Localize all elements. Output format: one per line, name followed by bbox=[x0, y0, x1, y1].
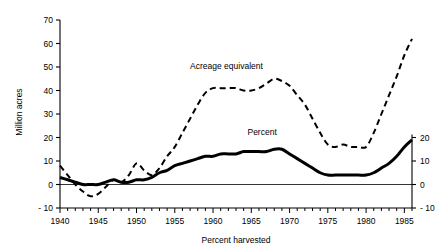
x-tick-label: 1985 bbox=[395, 216, 414, 226]
x-axis-title: Percent harvested bbox=[202, 235, 271, 245]
series-label-percent: Percent bbox=[247, 127, 277, 137]
x-tick-label: 1975 bbox=[318, 216, 337, 226]
y-tick-label-left: 40 bbox=[44, 86, 54, 96]
x-tick-label: 1945 bbox=[89, 216, 108, 226]
y-tick-label-left: 10 bbox=[44, 156, 54, 166]
series-label-acreage-equivalent: Acreage equivalent bbox=[190, 61, 263, 71]
x-tick-label: 1950 bbox=[127, 216, 146, 226]
x-tick-label: 1965 bbox=[242, 216, 261, 226]
x-tick-label: 1980 bbox=[357, 216, 376, 226]
chart-figure: - 10010203040506070- 1001020194019451950… bbox=[0, 0, 441, 250]
y-tick-label-right: 10 bbox=[420, 156, 430, 166]
y-tick-label-left: 0 bbox=[48, 180, 53, 190]
y-tick-label-left: 70 bbox=[44, 15, 54, 25]
y-tick-label-right: 20 bbox=[420, 133, 430, 143]
y-tick-label-left: 60 bbox=[44, 39, 54, 49]
y-tick-label-left: 20 bbox=[44, 133, 54, 143]
y-axis-title: Million acres bbox=[14, 88, 24, 135]
line-chart: - 10010203040506070- 1001020194019451950… bbox=[0, 0, 441, 250]
x-tick-label: 1960 bbox=[204, 216, 223, 226]
y-tick-label-right: 0 bbox=[420, 180, 425, 190]
x-tick-label: 1970 bbox=[280, 216, 299, 226]
y-tick-label-left: 30 bbox=[44, 109, 54, 119]
x-tick-label: 1955 bbox=[165, 216, 184, 226]
y-tick-label-right: - 10 bbox=[420, 203, 435, 213]
chart-background bbox=[0, 0, 441, 250]
y-tick-label-left: 50 bbox=[44, 62, 54, 72]
x-tick-label: 1940 bbox=[51, 216, 70, 226]
y-tick-label-left: - 10 bbox=[38, 203, 53, 213]
